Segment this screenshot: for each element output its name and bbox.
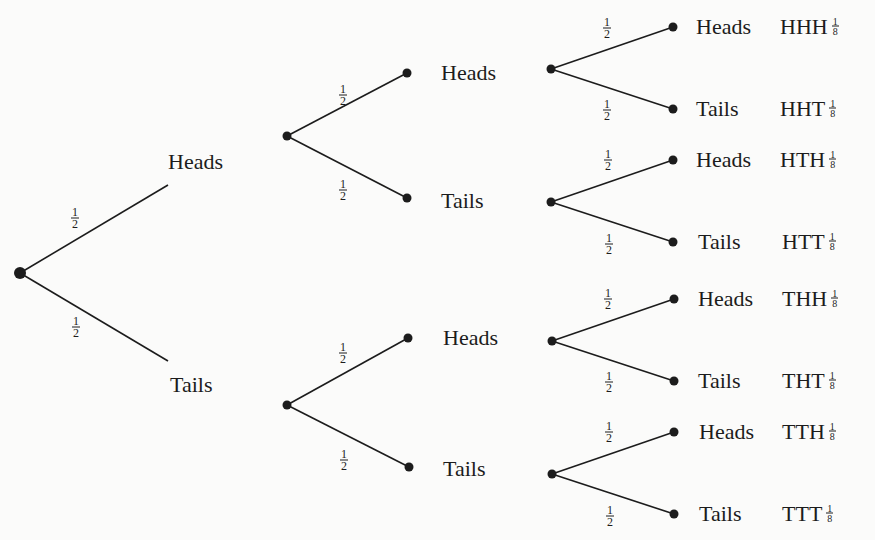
level1-node-dot <box>283 401 292 410</box>
branch-probability: 12 <box>339 84 347 107</box>
branch-line <box>551 27 673 69</box>
outcome-probability: 18 <box>829 371 836 390</box>
level2-label-heads: Heads <box>443 327 498 349</box>
outcome-probability: 18 <box>826 504 833 523</box>
probability-tree <box>0 0 875 540</box>
branch-probability: 12 <box>605 233 613 256</box>
branch-line <box>551 160 673 202</box>
leaf-label-tails: Tails <box>698 231 740 253</box>
fraction-denominator: 8 <box>830 381 835 390</box>
outcome-ttt: TTT <box>782 503 822 525</box>
leaf-dot <box>670 377 679 386</box>
leaf-dot <box>670 428 679 437</box>
leaf-label-tails: Tails <box>698 370 740 392</box>
branch-probability: 12 <box>71 207 79 230</box>
level2-node-dot <box>548 337 557 346</box>
outcome-probability: 18 <box>829 99 836 118</box>
level2-dot <box>403 194 412 203</box>
branch-line <box>287 136 407 198</box>
level2-dot <box>404 334 413 343</box>
outcome-probability: 18 <box>831 289 838 308</box>
fraction-denominator: 8 <box>830 109 835 118</box>
branch-line <box>287 338 408 405</box>
level2-label-tails: Tails <box>443 458 485 480</box>
branch-probability: 12 <box>340 449 348 472</box>
fraction-denominator: 2 <box>73 328 79 339</box>
fraction-denominator: 2 <box>340 191 346 202</box>
level1-label-tails: Tails <box>170 374 212 396</box>
branch-probability: 12 <box>72 316 80 339</box>
level2-dot <box>403 69 412 78</box>
branch-probability: 12 <box>606 505 614 528</box>
fraction-denominator: 2 <box>606 245 612 256</box>
leaf-dot <box>669 105 678 114</box>
fraction-denominator: 8 <box>827 514 832 523</box>
branch-line <box>552 432 674 474</box>
outcome-hhh: HHH <box>780 16 828 38</box>
outcome-thh: THH <box>782 288 827 310</box>
level1-label-heads: Heads <box>168 151 223 173</box>
branch-line <box>20 273 168 361</box>
outcome-probability: 18 <box>832 17 839 36</box>
leaf-label-heads: Heads <box>696 16 751 38</box>
level2-dot <box>405 463 414 472</box>
outcome-htt: HTT <box>782 231 825 253</box>
level1-node-dot <box>283 132 292 141</box>
leaf-dot <box>669 238 678 247</box>
level2-node-dot <box>547 198 556 207</box>
branch-line <box>287 73 407 136</box>
branch-line <box>20 185 168 273</box>
level2-label-heads: Heads <box>441 62 496 84</box>
fraction-denominator: 8 <box>830 432 835 441</box>
branch-probability: 12 <box>603 99 611 122</box>
outcome-tht: THT <box>782 370 825 392</box>
leaf-dot <box>669 23 678 32</box>
fraction-denominator: 2 <box>340 96 346 107</box>
branch-probability: 12 <box>339 342 347 365</box>
fraction-denominator: 8 <box>830 160 835 169</box>
fraction-denominator: 8 <box>833 27 838 36</box>
level2-label-tails: Tails <box>441 190 483 212</box>
fraction-denominator: 2 <box>605 161 611 172</box>
leaf-dot <box>670 510 679 519</box>
outcome-probability: 18 <box>829 232 836 251</box>
branch-probability: 12 <box>604 149 612 172</box>
branch-line <box>287 405 409 467</box>
outcome-hth: HTH <box>780 149 825 171</box>
leaf-label-heads: Heads <box>699 421 754 443</box>
branch-line <box>551 69 673 109</box>
branch-probability: 12 <box>605 421 613 444</box>
outcome-hht: HHT <box>780 98 825 120</box>
leaf-label-tails: Tails <box>699 503 741 525</box>
fraction-denominator: 2 <box>605 300 611 311</box>
fraction-denominator: 2 <box>607 517 613 528</box>
fraction-denominator: 2 <box>606 433 612 444</box>
leaf-label-heads: Heads <box>696 149 751 171</box>
branch-line <box>552 299 674 341</box>
fraction-denominator: 8 <box>830 242 835 251</box>
fraction-denominator: 2 <box>341 461 347 472</box>
outcome-probability: 18 <box>829 422 836 441</box>
root-node-dot <box>14 267 26 279</box>
fraction-denominator: 2 <box>604 29 610 40</box>
branch-probability: 12 <box>604 288 612 311</box>
level2-node-dot <box>548 470 557 479</box>
fraction-denominator: 8 <box>832 299 837 308</box>
branch-probability: 12 <box>603 17 611 40</box>
branch-probability: 12 <box>339 179 347 202</box>
outcome-tth: TTH <box>782 421 825 443</box>
fraction-denominator: 2 <box>606 383 612 394</box>
leaf-label-tails: Tails <box>696 98 738 120</box>
leaf-label-heads: Heads <box>698 288 753 310</box>
branch-line <box>552 341 674 381</box>
fraction-denominator: 2 <box>604 111 610 122</box>
leaf-dot <box>669 156 678 165</box>
level2-node-dot <box>547 65 556 74</box>
fraction-denominator: 2 <box>72 219 78 230</box>
fraction-denominator: 2 <box>340 354 346 365</box>
leaf-dot <box>670 295 679 304</box>
branch-probability: 12 <box>605 371 613 394</box>
outcome-probability: 18 <box>829 150 836 169</box>
